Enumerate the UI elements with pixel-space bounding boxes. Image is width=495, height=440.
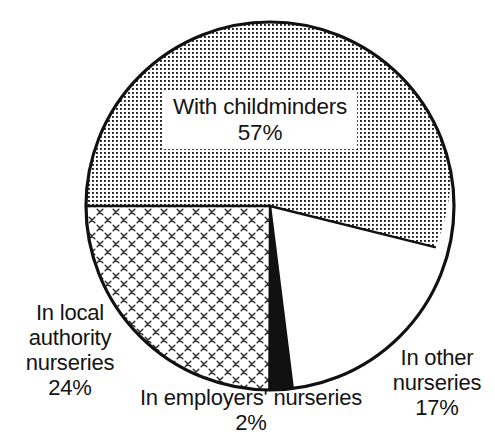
- pie-label-in-other-nurseries: In other nurseries 17%: [378, 345, 495, 420]
- pie-label-with-childminders: With childminders 57%: [163, 92, 357, 149]
- pie-label-in-employers-nurseries: In employers' nurseries 2%: [128, 385, 374, 435]
- pie-chart-figure: With childminders 57% In local authority…: [0, 0, 495, 440]
- pie-label-in-local-authority-nurseries: In local authority nurseries 24%: [2, 300, 138, 400]
